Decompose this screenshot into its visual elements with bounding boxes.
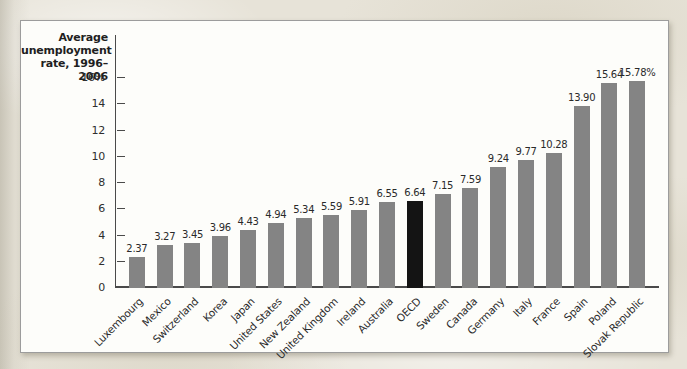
bar-value-label-mexico: 3.27 <box>154 231 175 242</box>
bar-value-label-canada: 7.59 <box>460 174 481 185</box>
bar-group-france: 10.28France <box>540 78 568 288</box>
bar-group-germany: 9.24Germany <box>484 78 512 288</box>
chart-panel: Average unemployment rate, 1996–2006 024… <box>20 20 669 353</box>
bar-value-label-slovak-republic: 15.78% <box>619 67 655 78</box>
bar-value-label-germany: 9.24 <box>488 153 509 164</box>
bar-group-luxembourg: 2.37Luxembourg <box>123 78 151 288</box>
bar-value-label-new-zealand: 5.34 <box>293 204 314 215</box>
y-tick-label: 16% <box>23 71 111 84</box>
bar-group-oecd: 6.64OECD <box>401 78 429 288</box>
category-label-france: France <box>530 295 562 327</box>
bar-group-poland: 15.64Poland <box>596 78 624 288</box>
y-tick-10: 10 <box>23 150 125 163</box>
bar-value-label-korea: 3.96 <box>210 222 231 233</box>
bar-sweden <box>435 194 451 288</box>
bars-area: 2.37Luxembourg3.27Mexico3.45Switzerland3… <box>123 78 651 288</box>
y-tick-4: 4 <box>23 229 125 242</box>
bar-japan <box>240 230 256 288</box>
bar-value-label-italy: 9.77 <box>516 146 537 157</box>
y-tick-label: 8 <box>23 176 111 189</box>
bar-group-united-kingdom: 5.59United Kingdom <box>318 78 346 288</box>
y-tick-label: 12 <box>23 124 111 137</box>
bar-australia <box>379 202 395 288</box>
y-tick-label: 6 <box>23 202 111 215</box>
bar-value-label-ireland: 5.91 <box>349 196 370 207</box>
bar-group-ireland: 5.91Ireland <box>345 78 373 288</box>
y-tick-16-: 16% <box>23 71 125 84</box>
bar-value-label-sweden: 7.15 <box>432 180 453 191</box>
y-tick-8: 8 <box>23 176 125 189</box>
bar-group-sweden: 7.15Sweden <box>429 78 457 288</box>
bar-group-united-states: 4.94United States <box>262 78 290 288</box>
bar-group-japan: 4.43Japan <box>234 78 262 288</box>
bar-korea <box>212 236 228 288</box>
bar-canada <box>462 188 478 288</box>
bar-value-label-luxembourg: 2.37 <box>126 243 147 254</box>
bar-france <box>546 153 562 288</box>
bar-united-states <box>268 223 284 288</box>
bar-mexico <box>157 245 173 288</box>
bar-germany <box>490 167 506 288</box>
bar-poland <box>601 83 617 288</box>
bar-group-canada: 7.59Canada <box>457 78 485 288</box>
y-tick-12: 12 <box>23 124 125 137</box>
y-tick-2: 2 <box>23 255 125 268</box>
bar-switzerland <box>184 243 200 288</box>
category-label-italy: Italy <box>511 295 535 319</box>
bar-group-switzerland: 3.45Switzerland <box>179 78 207 288</box>
bar-value-label-spain: 13.90 <box>568 92 595 103</box>
bar-value-label-australia: 6.55 <box>377 188 398 199</box>
y-tick-label: 0 <box>23 281 111 294</box>
bar-group-italy: 9.77Italy <box>512 78 540 288</box>
y-tick-label: 2 <box>23 255 111 268</box>
bar-group-mexico: 3.27Mexico <box>151 78 179 288</box>
bar-group-australia: 6.55Australia <box>373 78 401 288</box>
y-axis-ticks: 0246810121416% <box>21 21 125 288</box>
bar-value-label-switzerland: 3.45 <box>182 229 203 240</box>
category-label-luxembourg: Luxembourg <box>92 295 145 348</box>
bar-value-label-france: 10.28 <box>540 139 567 150</box>
bar-value-label-united-kingdom: 5.59 <box>321 201 342 212</box>
bar-value-label-oecd: 6.64 <box>404 187 425 198</box>
book-page-background: Average unemployment rate, 1996–2006 024… <box>0 0 687 369</box>
bar-luxembourg <box>129 257 145 288</box>
bar-new-zealand <box>296 218 312 288</box>
bar-ireland <box>351 210 367 288</box>
bar-slovak-republic <box>629 81 645 288</box>
bar-spain <box>574 106 590 288</box>
y-tick-14: 14 <box>23 97 125 110</box>
category-label-korea: Korea <box>200 295 229 324</box>
bar-italy <box>518 160 534 288</box>
bar-group-slovak-republic: 15.78%Slovak Republic <box>623 78 651 288</box>
bar-united-kingdom <box>323 215 339 288</box>
y-tick-label: 10 <box>23 150 111 163</box>
bar-value-label-japan: 4.43 <box>238 216 259 227</box>
bar-group-new-zealand: 5.34New Zealand <box>290 78 318 288</box>
bar-value-label-united-states: 4.94 <box>265 209 286 220</box>
y-tick-6: 6 <box>23 202 125 215</box>
bar-oecd <box>407 201 423 288</box>
y-tick-label: 4 <box>23 229 111 242</box>
bar-group-korea: 3.96Korea <box>206 78 234 288</box>
y-tick-0: 0 <box>23 281 125 294</box>
y-tick-label: 14 <box>23 97 111 110</box>
bar-group-spain: 13.90Spain <box>568 78 596 288</box>
